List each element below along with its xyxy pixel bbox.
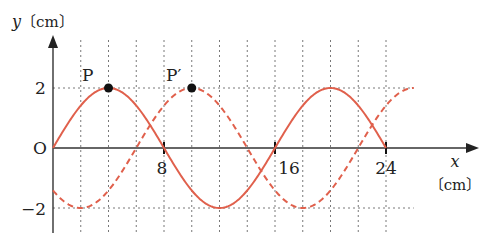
- y-tick-label-neg2: −2: [21, 199, 46, 219]
- origin-label: O: [33, 138, 47, 158]
- wave-chart: y〔cm〕 x 〔cm〕 O 2 −2 8 16 24 P P′: [0, 0, 488, 241]
- point-p-prime-marker: [187, 84, 196, 93]
- x-axis-arrow-icon: [466, 143, 479, 153]
- point-p-label: P: [82, 65, 93, 85]
- point-p-prime-label: P′: [166, 65, 181, 85]
- x-tick-label-16: 16: [278, 158, 300, 178]
- x-axis-unit: 〔cm〕: [429, 176, 482, 194]
- axes: [48, 35, 479, 233]
- x-tick-label-24: 24: [375, 158, 397, 178]
- y-tick-label-2: 2: [35, 78, 46, 98]
- x-tick-label-8: 8: [157, 158, 168, 178]
- point-p-marker: [104, 84, 113, 93]
- x-axis-label: x: [450, 152, 459, 171]
- y-axis-label: y〔cm〕: [11, 12, 74, 31]
- y-axis-arrow-icon: [48, 35, 58, 48]
